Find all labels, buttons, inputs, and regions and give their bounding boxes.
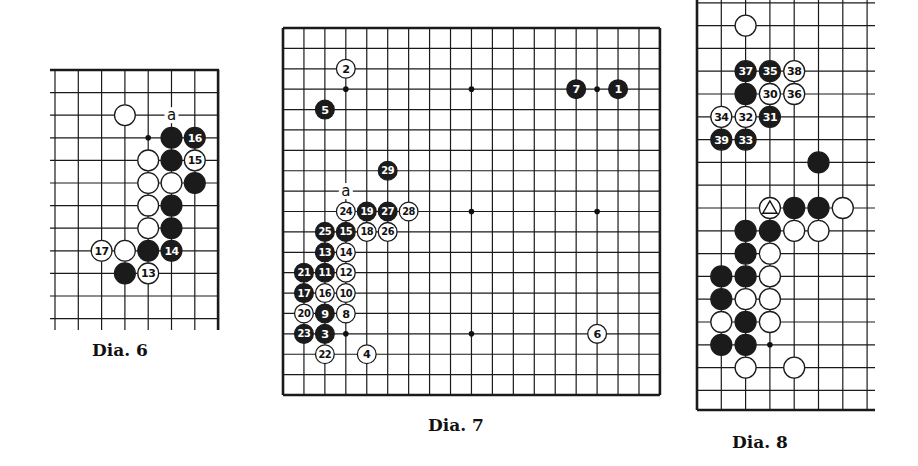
svg-text:30: 30 [763,88,778,101]
white-stone [808,220,829,241]
caption-dia-6: Dia. 6 [92,340,148,360]
black-stone: 3 [316,324,335,343]
svg-text:26: 26 [381,226,394,237]
white-stone [138,195,159,216]
svg-text:31: 31 [763,111,777,124]
white-stone: 16 [316,284,335,303]
black-stone: 5 [316,100,335,119]
black-stone: 16 [184,127,205,148]
svg-text:17: 17 [298,288,311,299]
svg-text:22: 22 [319,349,332,360]
white-stone [784,220,805,241]
black-stone [184,173,205,194]
black-stone [711,266,732,287]
svg-text:36: 36 [787,88,802,101]
white-stone: 24 [336,202,355,221]
white-stone: 32 [735,106,756,127]
black-stone [735,312,756,333]
white-stone [832,198,853,219]
svg-text:28: 28 [402,206,415,217]
black-stone [711,289,732,310]
svg-text:20: 20 [298,308,311,319]
black-stone [735,266,756,287]
svg-text:a: a [167,106,176,124]
black-stone [138,240,159,261]
caption-dia-7: Dia. 7 [428,415,484,435]
black-stone: 19 [357,202,376,221]
white-stone: 36 [784,84,805,105]
svg-text:16: 16 [319,288,332,299]
black-stone: 33 [735,129,756,150]
white-stone: 38 [784,61,805,82]
black-stone [161,127,182,148]
svg-text:27: 27 [381,206,394,217]
white-stone [735,15,756,36]
white-stone: 10 [336,284,355,303]
white-stone: 8 [336,304,355,323]
white-stone [161,173,182,194]
svg-text:24: 24 [339,206,352,217]
svg-text:4: 4 [363,348,371,361]
svg-text:16: 16 [188,132,202,145]
black-stone: 15 [336,223,355,242]
svg-text:23: 23 [298,328,311,339]
black-stone [808,152,829,173]
svg-text:10: 10 [339,288,352,299]
white-stone [138,218,159,239]
white-stone [759,289,780,310]
black-stone: 13 [316,243,335,262]
black-stone: 17 [295,284,314,303]
black-stone [735,220,756,241]
caption-dia-8: Dia. 8 [732,432,788,452]
svg-text:6: 6 [593,328,601,341]
svg-text:13: 13 [319,247,332,258]
svg-text:21: 21 [298,267,311,278]
white-stone [759,243,780,264]
svg-text:25: 25 [319,226,332,237]
black-stone [161,195,182,216]
white-stone: 18 [357,223,376,242]
white-stone: 20 [295,304,314,323]
black-stone: 29 [378,161,397,180]
white-stone [115,105,136,126]
black-stone [808,198,829,219]
white-stone [711,312,732,333]
white-stone: 4 [357,345,376,364]
white-stone [759,312,780,333]
black-stone [759,220,780,241]
diagram-dia8: 37353830363432313933 [697,0,875,410]
black-stone: 39 [711,129,732,150]
svg-text:29: 29 [381,165,394,176]
svg-text:37: 37 [738,65,752,78]
svg-text:13: 13 [141,267,155,280]
svg-text:2: 2 [342,63,349,76]
black-stone: 23 [295,324,314,343]
black-stone [161,218,182,239]
svg-text:8: 8 [342,308,350,321]
svg-text:33: 33 [738,134,752,147]
svg-text:11: 11 [319,267,332,278]
diagram-dia6: a1615171413 [50,70,219,330]
black-stone: 27 [378,202,397,221]
svg-text:15: 15 [188,154,202,167]
white-stone: 26 [378,223,397,242]
white-stone: 12 [336,263,355,282]
white-stone: 2 [336,59,355,78]
black-stone [115,263,136,284]
black-stone [735,334,756,355]
svg-text:19: 19 [360,206,373,217]
black-stone: 11 [316,263,335,282]
svg-text:39: 39 [714,134,728,147]
white-stone: 14 [336,243,355,262]
black-stone [784,198,805,219]
white-stone [735,289,756,310]
svg-text:15: 15 [339,226,352,237]
black-stone [735,243,756,264]
go-diagrams: a1615171413a2571292419272825151826131421… [0,0,918,466]
black-stone: 14 [161,240,182,261]
svg-text:18: 18 [360,226,373,237]
black-stone: 25 [316,223,335,242]
white-stone: 30 [759,84,780,105]
white-stone [138,173,159,194]
white-stone: 34 [711,106,732,127]
